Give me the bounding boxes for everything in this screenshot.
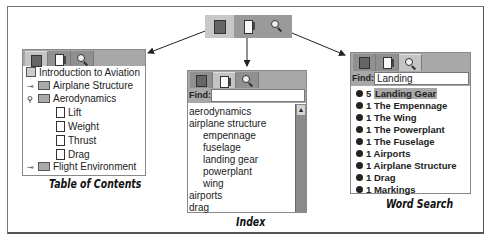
- index-item[interactable]: powerplant: [203, 166, 252, 178]
- index-find-row: Find:: [188, 88, 306, 103]
- index-item[interactable]: wing: [203, 178, 224, 190]
- tab-search[interactable]: [71, 51, 94, 66]
- toc-item[interactable]: Drag: [56, 149, 90, 161]
- magnifier-icon: [271, 20, 279, 28]
- top-tab-contents[interactable]: [205, 15, 234, 38]
- bullet-icon: [356, 102, 363, 109]
- bullet-icon: [356, 114, 363, 121]
- toc-tab-bar: [23, 50, 145, 66]
- tab-search[interactable]: [236, 72, 259, 88]
- index-item[interactable]: empennage: [203, 130, 256, 142]
- toc-panel: Introduction to Aviation ⊸Airplane Struc…: [22, 49, 146, 176]
- toc-item[interactable]: Introduction to Aviation: [26, 67, 140, 79]
- book-icon: [31, 55, 42, 67]
- magnifier-icon: [242, 75, 250, 83]
- search-result[interactable]: 1 Markings: [356, 184, 416, 196]
- toc-item[interactable]: ⚲Aerodynamics: [27, 93, 116, 106]
- find-label: Find:: [189, 90, 211, 100]
- bullet-icon: [356, 162, 363, 169]
- toc-item[interactable]: ⊸Flight Environment: [27, 161, 136, 174]
- page-icon: [220, 76, 229, 88]
- index-find-input[interactable]: [211, 89, 305, 102]
- magnifier-icon: [405, 58, 413, 66]
- tab-search[interactable]: [399, 54, 422, 71]
- index-item[interactable]: drag: [189, 202, 209, 214]
- index-item[interactable]: airports: [189, 190, 222, 202]
- find-label: Find:: [352, 73, 374, 83]
- collapsed-key-icon[interactable]: ⊸: [27, 81, 38, 93]
- document-icon: [56, 121, 65, 132]
- bullet-icon: [356, 186, 363, 193]
- top-tab-strip: [205, 15, 292, 38]
- document-icon: [56, 149, 65, 160]
- search-result[interactable]: 1 The Wing: [356, 112, 417, 124]
- toc-item[interactable]: Lift: [56, 107, 81, 119]
- page-icon: [55, 54, 64, 66]
- tab-contents[interactable]: [353, 54, 376, 71]
- collapsed-key-icon[interactable]: ⊸: [27, 162, 38, 174]
- tab-contents[interactable]: [25, 51, 48, 66]
- toc-item[interactable]: Thrust: [56, 135, 96, 147]
- tab-index[interactable]: [213, 72, 236, 88]
- bullet-icon: [356, 174, 363, 181]
- book-icon: [196, 75, 207, 87]
- index-caption: Index: [236, 215, 265, 229]
- tab-contents[interactable]: [190, 72, 213, 88]
- index-item[interactable]: landing gear: [203, 154, 258, 166]
- book-icon: [214, 20, 226, 34]
- word-search-caption: Word Search: [386, 197, 453, 211]
- search-result[interactable]: 5 Landing Gear: [356, 88, 437, 100]
- search-find-row: Find: Landing: [351, 71, 470, 86]
- search-result[interactable]: 1 The Powerplant: [356, 124, 445, 136]
- bullet-icon: [356, 150, 363, 157]
- index-tab-bar: [188, 71, 306, 88]
- index-item[interactable]: aerodynamics: [189, 106, 251, 118]
- toc-item[interactable]: Weight: [56, 121, 99, 133]
- bullet-icon: [356, 126, 363, 133]
- bullet-icon: [356, 90, 363, 97]
- search-find-input[interactable]: Landing: [374, 72, 469, 85]
- tab-index[interactable]: [376, 54, 399, 71]
- top-tab-search[interactable]: [263, 15, 292, 38]
- index-panel: Find: ▲ aerodynamics airplane structure …: [187, 70, 307, 213]
- toc-item[interactable]: ⊸Airplane Structure: [27, 80, 133, 93]
- search-result[interactable]: 1 The Empennage: [356, 100, 447, 112]
- arrow-to-toc: [148, 28, 213, 53]
- index-item[interactable]: airplane structure: [189, 118, 266, 130]
- magnifier-icon: [77, 54, 85, 62]
- document-icon: [56, 107, 65, 118]
- folder-icon: [38, 162, 50, 171]
- folder-icon: [38, 81, 50, 90]
- page-icon: [383, 57, 392, 69]
- search-result[interactable]: 1 The Fuselage: [356, 136, 435, 148]
- toc-caption: Table of Contents: [49, 177, 141, 191]
- search-result[interactable]: 1 Airplane Structure: [356, 160, 456, 172]
- search-result[interactable]: 1 Airports: [356, 148, 411, 160]
- search-tab-bar: [351, 53, 470, 71]
- top-tab-index[interactable]: [234, 15, 263, 38]
- index-scrollbar[interactable]: ▲: [295, 104, 306, 212]
- scroll-up-arrow-icon[interactable]: ▲: [297, 105, 305, 115]
- bullet-icon: [356, 138, 363, 145]
- document-icon: [56, 135, 65, 146]
- book-stack-icon: [26, 67, 36, 77]
- expanded-key-icon[interactable]: ⚲: [27, 94, 38, 106]
- tab-index[interactable]: [48, 51, 71, 66]
- word-search-panel: Find: Landing 5 Landing Gear 1 The Empen…: [350, 52, 471, 194]
- page-icon: [244, 20, 253, 34]
- folder-icon: [38, 94, 50, 103]
- index-item[interactable]: fuselage: [203, 142, 241, 154]
- search-result[interactable]: 1 Drag: [356, 172, 396, 184]
- book-icon: [359, 57, 370, 69]
